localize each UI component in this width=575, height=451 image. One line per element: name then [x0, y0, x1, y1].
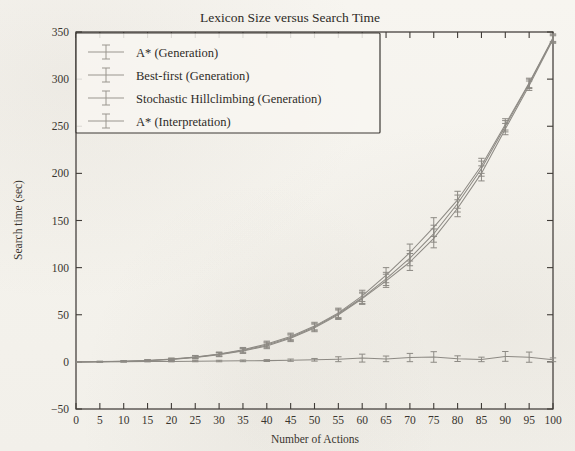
x-tick-label: 20	[166, 414, 178, 426]
y-tick-label: 150	[52, 215, 70, 227]
x-tick-label: 90	[500, 414, 512, 426]
x-tick-label: 95	[523, 414, 535, 426]
x-tick-label: 80	[452, 414, 464, 426]
y-tick-label: 0	[63, 356, 69, 368]
x-tick-label: 35	[237, 414, 249, 426]
chart-title: Lexicon Size versus Search Time	[200, 10, 380, 25]
x-tick-label: 100	[544, 414, 562, 426]
x-tick-label: 5	[97, 414, 103, 426]
y-tick-label: 50	[58, 309, 70, 321]
y-axis-title: Search time (sec)	[12, 180, 25, 260]
x-tick-label: 10	[118, 414, 130, 426]
y-tick-label: 300	[52, 73, 70, 85]
legend-label: A* (Interpretation)	[136, 115, 231, 129]
y-tick-label: 200	[52, 167, 70, 179]
x-tick-label: 15	[142, 414, 154, 426]
x-tick-label: 30	[213, 414, 225, 426]
chart-legend: A* (Generation)Best-first (Generation)St…	[76, 33, 380, 133]
x-tick-label: 40	[261, 414, 273, 426]
legend-label: Stochastic Hillclimbing (Generation)	[136, 92, 321, 106]
x-tick-label: 60	[356, 414, 368, 426]
series-3	[76, 352, 556, 363]
y-tick-label: 350	[52, 26, 70, 38]
chart-svg: Lexicon Size versus Search Time −5005010…	[0, 0, 575, 451]
x-tick-label: 75	[428, 414, 440, 426]
x-tick-label: 50	[309, 414, 321, 426]
x-tick-label: 55	[333, 414, 345, 426]
y-tick-label: 250	[52, 120, 70, 132]
chart-figure: Lexicon Size versus Search Time −5005010…	[0, 0, 575, 451]
legend-label: A* (Generation)	[136, 46, 218, 60]
x-tick-label: 45	[285, 414, 297, 426]
x-axis-title: Number of Actions	[271, 433, 360, 445]
x-tick-label: 0	[73, 414, 79, 426]
y-tick-label: −50	[51, 403, 69, 415]
legend-label: Best-first (Generation)	[136, 69, 250, 83]
x-tick-label: 25	[190, 414, 202, 426]
x-tick-label: 70	[404, 414, 416, 426]
x-tick-label: 85	[476, 414, 488, 426]
x-tick-label: 65	[380, 414, 392, 426]
y-tick-label: 100	[52, 262, 70, 274]
